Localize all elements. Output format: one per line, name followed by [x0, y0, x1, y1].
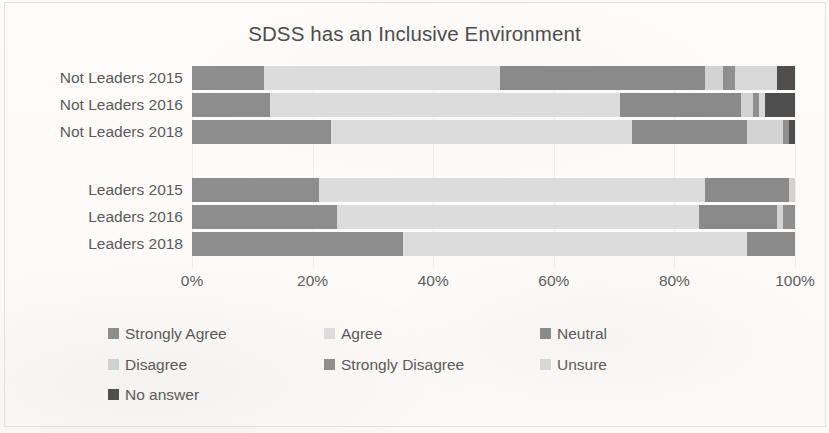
legend-label: Disagree	[125, 357, 187, 373]
legend-label: Strongly Disagree	[341, 357, 464, 373]
bar-not-leaders-2016[interactable]	[192, 93, 795, 117]
legend-item-disagree[interactable]: Disagree	[108, 357, 324, 373]
bar-segment-agree[interactable]	[403, 232, 747, 256]
bar-segment-agree[interactable]	[337, 205, 699, 229]
gridline-100pct	[795, 66, 796, 268]
legend-item-unsure[interactable]: Unsure	[540, 357, 756, 373]
bar-segment-neutral[interactable]	[500, 66, 705, 90]
legend-item-agree[interactable]: Agree	[324, 326, 540, 342]
legend-swatch-icon	[108, 328, 119, 339]
y-axis-label-leaders-2015: Leaders 2015	[0, 181, 183, 199]
legend-item-no-answer[interactable]: No answer	[108, 387, 324, 403]
y-axis-label-not-leaders-2018: Not Leaders 2018	[0, 123, 183, 141]
bar-segment-strongly-agree[interactable]	[192, 93, 270, 117]
legend-swatch-icon	[108, 359, 119, 370]
bar-segment-agree[interactable]	[331, 120, 633, 144]
bar-segment-neutral[interactable]	[699, 205, 777, 229]
x-axis-tick-80pct: 80%	[659, 272, 690, 290]
bar-segment-strongly-disagree[interactable]	[723, 66, 735, 90]
bar-not-leaders-2018[interactable]	[192, 120, 795, 144]
plot-area	[192, 66, 795, 268]
bar-segment-disagree[interactable]	[747, 120, 783, 144]
legend-swatch-icon	[108, 389, 119, 400]
bar-leaders-2016[interactable]	[192, 205, 795, 229]
legend-label: No answer	[125, 387, 199, 403]
bar-segment-no-answer[interactable]	[777, 66, 795, 90]
legend-swatch-icon	[540, 359, 551, 370]
legend-swatch-icon	[324, 359, 335, 370]
y-axis-label-not-leaders-2015: Not Leaders 2015	[0, 69, 183, 87]
legend-label: Unsure	[557, 357, 607, 373]
legend-label: Agree	[341, 326, 382, 342]
legend-swatch-icon	[324, 328, 335, 339]
legend-swatch-icon	[540, 328, 551, 339]
y-axis-label-not-leaders-2016: Not Leaders 2016	[0, 96, 183, 114]
bar-leaders-2018[interactable]	[192, 232, 795, 256]
x-axis-tick-60pct: 60%	[538, 272, 569, 290]
legend-item-neutral[interactable]: Neutral	[540, 326, 756, 342]
x-axis: 0%20%40%60%80%100%	[192, 272, 795, 298]
bar-segment-neutral[interactable]	[632, 120, 747, 144]
legend-label: Neutral	[557, 326, 607, 342]
legend-label: Strongly Agree	[125, 326, 227, 342]
legend-item-strongly-disagree[interactable]: Strongly Disagree	[324, 357, 540, 373]
y-axis-label-leaders-2016: Leaders 2016	[0, 208, 183, 226]
x-axis-tick-40pct: 40%	[418, 272, 449, 290]
bar-segment-strongly-agree[interactable]	[192, 232, 403, 256]
bar-segment-strongly-disagree[interactable]	[783, 205, 795, 229]
bar-segment-disagree[interactable]	[705, 66, 723, 90]
bar-leaders-2015[interactable]	[192, 178, 795, 202]
bar-segment-neutral[interactable]	[705, 178, 789, 202]
bar-segment-strongly-agree[interactable]	[192, 205, 337, 229]
x-axis-tick-100pct: 100%	[775, 272, 815, 290]
bar-segment-neutral[interactable]	[747, 232, 795, 256]
bar-segment-no-answer[interactable]	[789, 120, 795, 144]
bar-segment-agree[interactable]	[264, 66, 499, 90]
bar-not-leaders-2015[interactable]	[192, 66, 795, 90]
bar-segment-unsure[interactable]	[735, 66, 777, 90]
bar-segment-disagree[interactable]	[741, 93, 753, 117]
bar-segment-neutral[interactable]	[620, 93, 741, 117]
legend-item-strongly-agree[interactable]: Strongly Agree	[108, 326, 324, 342]
chart-title: SDSS has an Inclusive Environment	[0, 22, 829, 46]
bar-segment-agree[interactable]	[319, 178, 705, 202]
x-axis-tick-20pct: 20%	[297, 272, 328, 290]
bar-segment-strongly-agree[interactable]	[192, 120, 331, 144]
bar-segment-agree[interactable]	[270, 93, 620, 117]
chart-legend: Strongly AgreeAgreeNeutralDisagreeStrong…	[108, 326, 758, 403]
bar-segment-no-answer[interactable]	[765, 93, 795, 117]
y-axis-label-leaders-2018: Leaders 2018	[0, 235, 183, 253]
bar-segment-strongly-agree[interactable]	[192, 178, 319, 202]
x-axis-tick-0pct: 0%	[181, 272, 203, 290]
bar-segment-strongly-agree[interactable]	[192, 66, 264, 90]
bar-segment-disagree[interactable]	[789, 178, 795, 202]
